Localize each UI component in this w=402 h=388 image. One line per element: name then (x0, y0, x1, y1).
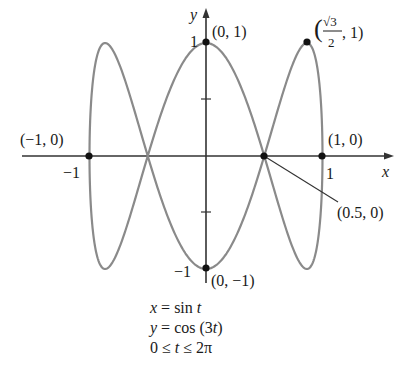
svg-text:(: ( (314, 14, 323, 43)
point-0-neg1 (202, 264, 209, 271)
point-label-0-1: (0, 1) (212, 23, 247, 41)
point-neg1-0 (85, 152, 92, 159)
point-label-sqrt3-1: ( √3 2 , 1) (314, 14, 363, 50)
svg-text:2: 2 (328, 35, 335, 50)
y-axis-label: y (188, 6, 198, 24)
point-label-0-neg1: (0, −1) (211, 272, 255, 290)
x-tick-label-neg1: −1 (63, 164, 80, 181)
y-tick-label-neg1: −1 (174, 263, 191, 280)
point-label-05-0: (0.5, 0) (337, 204, 384, 222)
point-sqrt3-1 (303, 38, 310, 45)
point-0-1 (202, 38, 209, 45)
point-05-0 (260, 152, 267, 159)
point-label-neg1-0: (−1, 0) (20, 131, 64, 149)
y-axis-arrow-icon (203, 8, 210, 18)
point-1-0 (318, 152, 325, 159)
x-axis-label: x (381, 163, 389, 180)
x-tick-label-1: 1 (326, 165, 334, 182)
point-label-1-0: (1, 0) (328, 131, 363, 149)
y-tick-label-1: 1 (190, 33, 198, 50)
x-axis-arrow-icon (384, 153, 394, 160)
equation-t-range: 0 ≤ t ≤ 2π (150, 338, 212, 358)
equation-y: y = cos (3t) (150, 318, 223, 338)
equation-x: x = sin t (150, 298, 201, 318)
svg-text:, 1): , 1) (342, 24, 363, 42)
svg-text:√3: √3 (323, 14, 337, 29)
